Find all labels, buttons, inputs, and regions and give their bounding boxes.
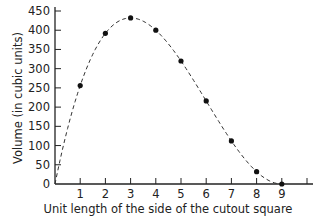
x-tick-label: 4 — [152, 187, 159, 201]
y-tick-label: 300 — [28, 62, 50, 76]
x-tick-label: 7 — [228, 187, 235, 201]
data-point — [178, 58, 183, 63]
y-tick-label: 450 — [28, 4, 50, 18]
y-axis: 050100150200250300350400450 — [28, 4, 61, 191]
x-tick-label: 3 — [127, 187, 134, 201]
x-tick-label: 9 — [278, 187, 285, 201]
y-axis-title: Volume (in cubic units) — [11, 32, 25, 164]
y-tick-label: 200 — [28, 100, 50, 114]
y-tick-label: 250 — [28, 81, 50, 95]
data-point — [153, 28, 158, 33]
data-point — [279, 181, 284, 186]
x-tick-label: 2 — [102, 187, 109, 201]
y-tick-label: 350 — [28, 42, 50, 56]
y-tick-label: 400 — [28, 23, 50, 37]
y-tick-label: 50 — [35, 158, 50, 172]
x-tick-label: 6 — [203, 187, 210, 201]
data-point — [128, 15, 133, 20]
x-axis: 123456789 — [55, 178, 313, 201]
data-point — [204, 98, 209, 103]
y-tick-label: 100 — [28, 139, 50, 153]
data-points — [78, 15, 285, 186]
data-point — [229, 138, 234, 143]
y-tick-label: 150 — [28, 119, 50, 133]
x-tick-label: 8 — [253, 187, 260, 201]
data-point — [254, 169, 259, 174]
y-tick-label: 0 — [43, 177, 50, 191]
data-point — [103, 31, 108, 36]
x-tick-label: 1 — [77, 187, 84, 201]
dashed-fit-curve — [55, 18, 282, 184]
volume-chart: 050100150200250300350400450 123456789 Vo… — [0, 0, 321, 220]
data-point — [78, 83, 83, 88]
x-axis-title: Unit length of the side of the cutout sq… — [44, 202, 293, 216]
x-tick-label: 5 — [177, 187, 184, 201]
